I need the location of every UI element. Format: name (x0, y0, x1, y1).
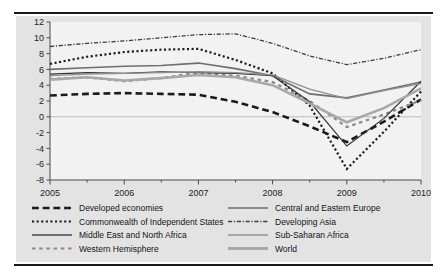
x-tick-label: 2010 (411, 188, 431, 198)
y-tick-label: 8 (39, 49, 44, 59)
y-tick-label: 12 (34, 17, 44, 27)
line-chart: 121086420-2-4-6-820052006200720082009201… (16, 16, 431, 262)
y-tick-label: -6 (36, 159, 44, 169)
legend-label: Developing Asia (275, 217, 336, 227)
y-tick-label: 2 (39, 96, 44, 106)
y-tick-label: 10 (34, 33, 44, 43)
x-tick-label: 2007 (188, 188, 208, 198)
legend-label: Central and Eastern Europe (275, 203, 381, 213)
legend-label: Commonwealth of Independent States (79, 217, 224, 227)
x-tick-label: 2005 (40, 188, 60, 198)
y-tick-label: -4 (36, 144, 44, 154)
y-tick-label: -8 (36, 175, 44, 185)
y-tick-label: 0 (39, 112, 44, 122)
legend-label: Middle East and North Africa (79, 230, 187, 240)
top-rule (14, 12, 433, 14)
x-tick-label: 2006 (114, 188, 134, 198)
y-tick-label: -2 (36, 128, 44, 138)
legend-label: Sub-Saharan Africa (275, 230, 349, 240)
x-tick-label: 2008 (263, 188, 283, 198)
chart-panel: 121086420-2-4-6-820052006200720082009201… (16, 16, 431, 262)
legend-label: Developed economies (79, 203, 163, 213)
legend-label: World (275, 244, 297, 254)
legend-label: Western Hemisphere (79, 244, 159, 254)
x-tick-label: 2009 (337, 188, 357, 198)
bottom-rule (14, 264, 433, 266)
figure-container: 121086420-2-4-6-820052006200720082009201… (0, 0, 447, 278)
y-tick-label: 4 (39, 80, 44, 90)
y-tick-label: 6 (39, 65, 44, 75)
